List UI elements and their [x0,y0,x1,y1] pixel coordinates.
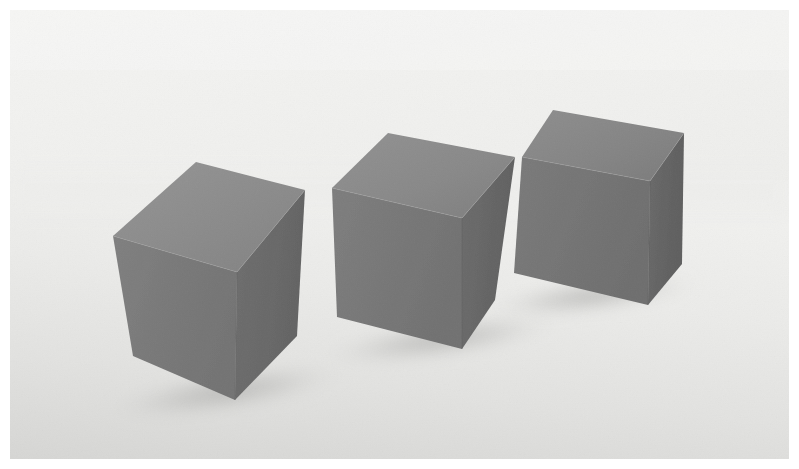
photo-content [10,10,789,459]
cube-photograph [0,0,799,469]
film-grain [10,10,789,459]
photo-scene-root: Three identical matte gray cubes arrange… [0,0,799,469]
photo-frame [0,0,799,469]
